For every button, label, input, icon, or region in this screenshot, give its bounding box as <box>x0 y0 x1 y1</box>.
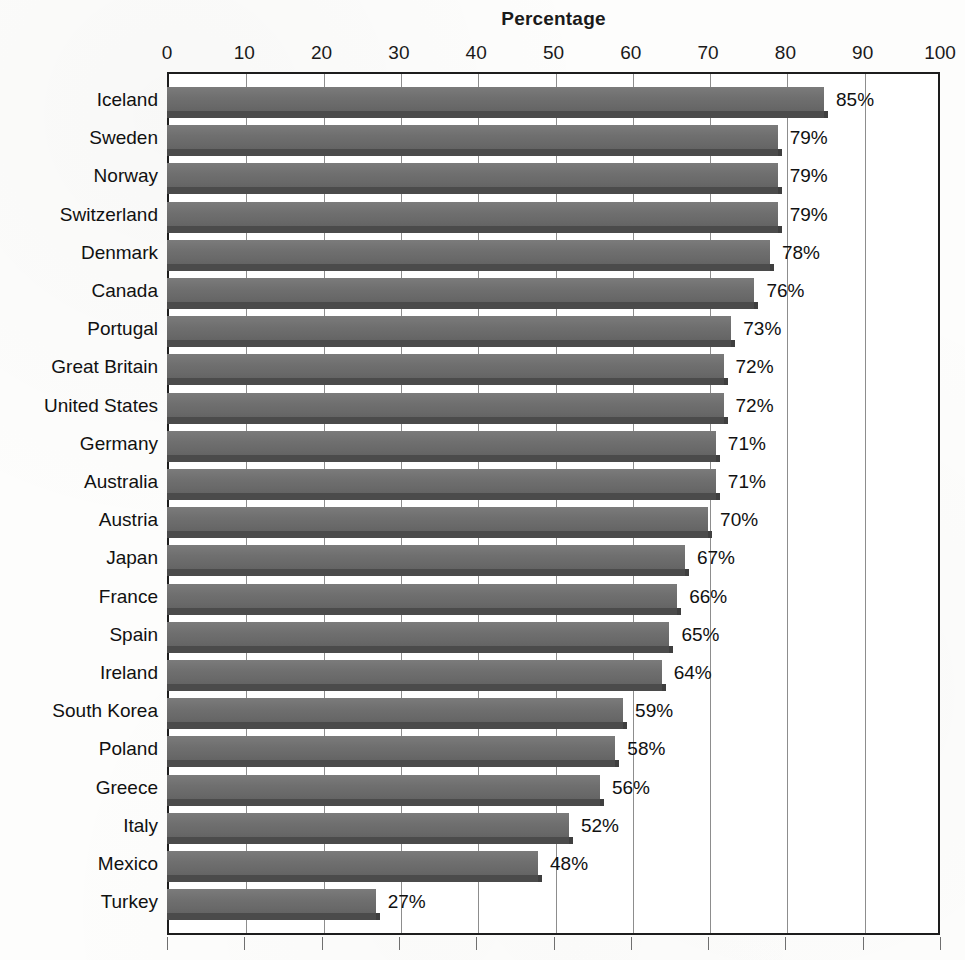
category-label: Australia <box>0 472 158 491</box>
category-label: Iceland <box>0 90 158 109</box>
bottom-tick-10 <box>244 937 245 950</box>
bar-value-label: 66% <box>689 587 727 606</box>
bar-value-label: 64% <box>674 663 712 682</box>
x-tick-label-80: 80 <box>775 42 796 64</box>
bar-value-label: 85% <box>836 90 874 109</box>
category-label: Ireland <box>0 663 158 682</box>
bar-value-label: 58% <box>627 739 665 758</box>
x-tick-label-0: 0 <box>162 42 173 64</box>
bottom-tick-30 <box>399 937 400 950</box>
x-axis-tick-labels: 0102030405060708090100 <box>0 42 965 70</box>
category-label: Poland <box>0 739 158 758</box>
bottom-tick-100 <box>940 937 941 950</box>
category-label: France <box>0 587 158 606</box>
category-label: Portugal <box>0 319 158 338</box>
bar-value-label: 67% <box>697 548 735 567</box>
category-label: Turkey <box>0 892 158 911</box>
x-tick-label-100: 100 <box>924 42 956 64</box>
category-label: Sweden <box>0 128 158 147</box>
bar-value-label: 48% <box>550 854 588 873</box>
bar-value-label: 72% <box>736 357 774 376</box>
bar-value-label: 79% <box>790 166 828 185</box>
category-label: Canada <box>0 281 158 300</box>
chart-page: Percentage 0102030405060708090100 Icelan… <box>0 0 965 960</box>
category-label: Austria <box>0 510 158 529</box>
bottom-tick-40 <box>476 937 477 950</box>
category-label: Germany <box>0 434 158 453</box>
bar-value-label: 52% <box>581 816 619 835</box>
x-tick-label-50: 50 <box>543 42 564 64</box>
bottom-tick-70 <box>708 937 709 950</box>
bar-value-label: 71% <box>728 434 766 453</box>
bar-value-label: 27% <box>388 892 426 911</box>
page-title: Percentage <box>167 8 940 30</box>
bottom-tick-60 <box>631 937 632 950</box>
x-tick-label-20: 20 <box>311 42 332 64</box>
bar-value-label: 78% <box>782 243 820 262</box>
category-label: Mexico <box>0 854 158 873</box>
x-tick-label-40: 40 <box>466 42 487 64</box>
category-label: Norway <box>0 166 158 185</box>
category-label: Spain <box>0 625 158 644</box>
x-tick-label-60: 60 <box>620 42 641 64</box>
x-tick-label-30: 30 <box>388 42 409 64</box>
category-label: United States <box>0 396 158 415</box>
category-label: Switzerland <box>0 205 158 224</box>
category-label: South Korea <box>0 701 158 720</box>
bar-value-label: 65% <box>681 625 719 644</box>
bar-value-label: 72% <box>736 396 774 415</box>
bottom-tick-20 <box>322 937 323 950</box>
bar-value-label: 70% <box>720 510 758 529</box>
bar-value-label: 73% <box>743 319 781 338</box>
bottom-tick-90 <box>863 937 864 950</box>
x-tick-label-70: 70 <box>698 42 719 64</box>
category-label: Greece <box>0 778 158 797</box>
bar-value-labels: 85%79%79%79%78%76%73%72%72%71%71%70%67%6… <box>167 72 965 935</box>
bar-value-label: 71% <box>728 472 766 491</box>
bottom-tick-80 <box>785 937 786 950</box>
x-tick-label-10: 10 <box>234 42 255 64</box>
category-label: Italy <box>0 816 158 835</box>
category-label: Great Britain <box>0 357 158 376</box>
bar-value-label: 79% <box>790 128 828 147</box>
x-tick-label-90: 90 <box>852 42 873 64</box>
y-axis-category-labels: IcelandSwedenNorwaySwitzerlandDenmarkCan… <box>0 72 158 935</box>
bottom-tick-0 <box>167 937 168 950</box>
bar-value-label: 79% <box>790 205 828 224</box>
bar-value-label: 76% <box>766 281 804 300</box>
bar-value-label: 56% <box>612 778 650 797</box>
bottom-tick-50 <box>554 937 555 950</box>
category-label: Denmark <box>0 243 158 262</box>
bar-value-label: 59% <box>635 701 673 720</box>
category-label: Japan <box>0 548 158 567</box>
